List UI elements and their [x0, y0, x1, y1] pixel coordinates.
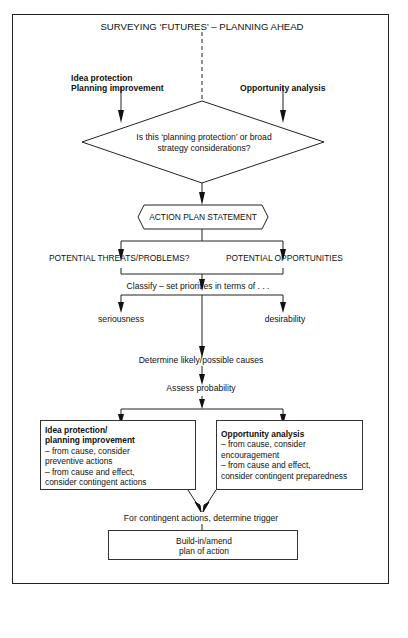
desirability-label: desirability	[265, 314, 306, 324]
idea-protection-line: preventive actions	[45, 456, 191, 466]
final-box-line1: Build-in/amend	[176, 536, 232, 546]
diagram-title: SURVEYING ‘FUTURES’ – PLANNING AHEAD	[100, 22, 303, 32]
opportunity-analysis-line: – from cause, consider	[221, 439, 358, 449]
idea-protection-heading-line2: planning improvement	[45, 435, 191, 445]
potential-threats-label: POTENTIAL THREATS/PROBLEMS?	[49, 253, 189, 263]
decision-question-line1: Is this ‘planning protection’ or broad	[136, 132, 271, 142]
idea-protection-line: – from cause, consider	[45, 446, 191, 456]
idea-protection-box: Idea protection/ planning improvement – …	[40, 420, 196, 490]
opportunity-analysis-line: – from cause and effect,	[221, 460, 358, 470]
classify-priorities-label: Classify – set priorities in terms of . …	[127, 281, 270, 291]
idea-protection-line: consider contingent actions	[45, 477, 191, 487]
idea-protection-line: – from cause and effect,	[45, 467, 191, 477]
assess-probability-label: Assess probability	[166, 383, 235, 393]
determine-causes-label: Determine likely/possible causes	[139, 355, 264, 365]
opportunity-analysis-heading: Opportunity analysis	[221, 429, 358, 439]
input-opportunity-analysis-label: Opportunity analysis	[240, 83, 325, 93]
opportunity-analysis-line: consider contingent preparedness	[221, 471, 358, 481]
input-planning-improvement-label: Planning improvement	[71, 83, 164, 93]
final-box-line2: plan of action	[179, 546, 229, 556]
decision-question-line2: strategy considerations?	[157, 143, 250, 153]
potential-opportunities-label: POTENTIAL OPPORTUNITIES	[226, 253, 343, 263]
seriousness-label: seriousness	[98, 314, 144, 324]
input-idea-protection-label: Idea protection	[71, 73, 133, 83]
opportunity-analysis-box: Opportunity analysis – from cause, consi…	[216, 420, 363, 490]
opportunity-analysis-line: encouragement	[221, 450, 358, 460]
determine-trigger-label: For contingent actions, determine trigge…	[124, 513, 278, 523]
action-plan-statement: ACTION PLAN STATEMENT	[149, 212, 257, 222]
idea-protection-heading-line1: Idea protection/	[45, 425, 191, 435]
build-in-amend-plan-box: Build-in/amend plan of action	[108, 530, 298, 560]
